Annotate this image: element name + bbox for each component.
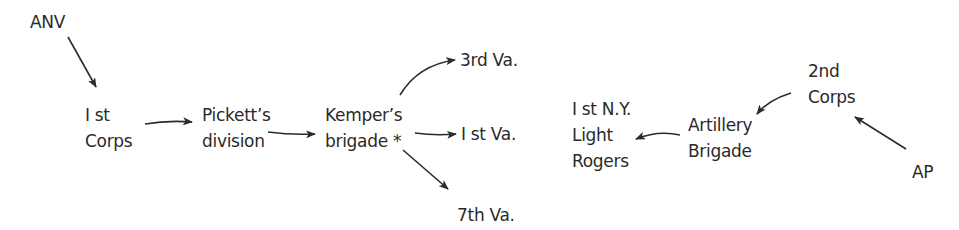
edge-first-corps-to-picketts-division — [145, 121, 192, 124]
edge-anv-to-first-corps — [68, 37, 96, 87]
node-artillery-brigade: Artillery Brigade — [688, 115, 753, 161]
node-first-corps-line-2: Corps — [85, 131, 133, 151]
node-third-va: 3rd Va. — [460, 50, 518, 70]
node-artillery-brigade-line-1: Artillery — [688, 115, 753, 135]
node-picketts-division: Pickett’s division — [202, 105, 271, 151]
edge-kempers-brigade-to-first-va — [415, 133, 456, 135]
node-second-corps-line-2: Corps — [808, 87, 856, 107]
node-ap: AP — [912, 162, 933, 182]
node-anv-label: ANV — [30, 12, 66, 32]
node-anv: ANV — [30, 12, 66, 32]
node-first-corps: I st Corps — [85, 105, 133, 151]
node-picketts-division-line-2: division — [202, 131, 265, 151]
node-picketts-division-line-1: Pickett’s — [202, 105, 271, 125]
node-second-corps: 2nd Corps — [808, 61, 856, 107]
edge-artillery-brigade-to-first-ny — [636, 133, 680, 139]
node-first-ny-line-3: Rogers — [572, 151, 629, 171]
node-second-corps-line-1: 2nd — [808, 61, 839, 81]
node-first-ny-line-2: Light — [572, 125, 614, 145]
node-first-ny-light-rogers: I st N.Y. Light Rogers — [572, 99, 631, 171]
node-kempers-brigade-line-2: brigade * — [325, 131, 401, 151]
edge-second-corps-to-artillery-brigade — [757, 93, 791, 114]
node-first-va-label: I st Va. — [461, 124, 516, 144]
node-kempers-brigade: Kemper’s brigade * — [325, 105, 403, 151]
node-artillery-brigade-line-2: Brigade — [688, 141, 752, 161]
organization-diagram: ANV I st Corps Pickett’s division Kemper… — [0, 0, 959, 230]
node-first-va: I st Va. — [461, 124, 516, 144]
edge-ap-to-second-corps — [855, 117, 906, 149]
edge-picketts-division-to-kempers-brigade — [268, 132, 315, 134]
node-seventh-va-label: 7th Va. — [457, 205, 515, 225]
node-kempers-brigade-line-1: Kemper’s — [325, 105, 403, 125]
node-first-ny-line-1: I st N.Y. — [572, 99, 631, 119]
node-first-corps-line-1: I st — [85, 105, 110, 125]
edge-kempers-brigade-to-third-va — [400, 60, 455, 95]
node-third-va-label: 3rd Va. — [460, 50, 518, 70]
edge-kempers-brigade-to-seventh-va — [403, 150, 448, 189]
node-seventh-va: 7th Va. — [457, 205, 515, 225]
node-ap-label: AP — [912, 162, 933, 182]
